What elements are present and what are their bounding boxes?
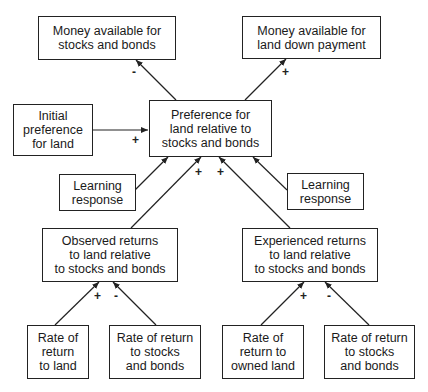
causal-loop-diagram: Money available for stocks and bonds Mon… bbox=[0, 0, 428, 392]
node-experienced-returns: Experienced returns to land relative to … bbox=[242, 228, 378, 282]
sign-experienced-to-pref: + bbox=[217, 166, 224, 178]
node-money-stocks: Money available for stocks and bonds bbox=[38, 16, 176, 60]
edge-rate-owned-to-experienced bbox=[261, 282, 304, 325]
node-money-land: Money available for land down payment bbox=[242, 16, 381, 59]
edge-rate-stocks-to-experienced bbox=[325, 282, 369, 325]
node-observed-returns: Observed returns to land relative to sto… bbox=[42, 228, 178, 282]
edge-pref-to-money-stocks bbox=[136, 60, 176, 100]
sign-rate-stocks-to-experienced: - bbox=[327, 290, 331, 302]
sign-initial-to-pref: + bbox=[132, 134, 139, 146]
sign-rate-stocks-to-observed: - bbox=[114, 290, 118, 302]
edge-learning-left-to-pref bbox=[135, 157, 168, 190]
node-rate-stocks-right: Rate of return to stocks and bonds bbox=[324, 325, 415, 379]
node-rate-stocks-left: Rate of return to stocks and bonds bbox=[109, 325, 201, 379]
node-learning-right: Learning response bbox=[287, 173, 364, 210]
sign-observed-to-pref: + bbox=[195, 166, 202, 178]
edge-rate-land-to-observed bbox=[55, 282, 99, 325]
node-rate-land: Rate of return to land bbox=[27, 325, 89, 379]
node-initial-preference: Initial preference for land bbox=[13, 104, 93, 156]
edge-pref-to-money-land bbox=[245, 59, 286, 100]
node-rate-owned-land: Rate of return to owned land bbox=[222, 325, 304, 379]
node-learning-left: Learning response bbox=[59, 174, 136, 211]
edge-experienced-to-pref bbox=[219, 157, 290, 228]
edge-observed-to-pref bbox=[131, 157, 201, 228]
sign-pref-to-money-stocks: - bbox=[132, 66, 136, 78]
sign-pref-to-money-land: + bbox=[282, 66, 289, 78]
sign-rate-land-to-observed: + bbox=[94, 290, 101, 302]
edge-learning-right-to-pref bbox=[253, 157, 287, 190]
sign-rate-owned-to-experienced: + bbox=[300, 290, 307, 302]
edge-rate-stocks-to-observed bbox=[113, 282, 156, 325]
node-preference: Preference for land relative to stocks a… bbox=[149, 100, 272, 157]
